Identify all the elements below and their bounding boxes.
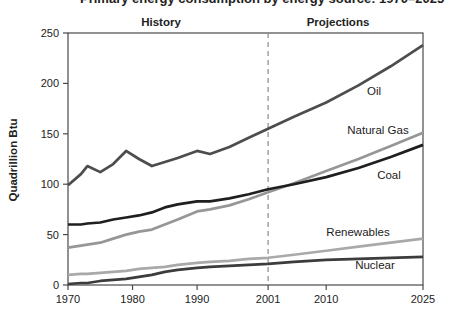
x-tick-label: 2010 — [314, 293, 338, 305]
y-tick-label: 50 — [47, 229, 59, 241]
x-tick-label: 1970 — [56, 293, 80, 305]
chart-title: Primary energy consumption by energy sou… — [80, 0, 444, 6]
series-label-nuclear: Nuclear — [355, 259, 395, 271]
series-label-oil: Oil — [367, 85, 381, 97]
series-label-renewables: Renewables — [326, 226, 390, 238]
page: { "page": { "title": "Primary energy con… — [0, 0, 451, 317]
x-tick-label: 1990 — [185, 293, 209, 305]
chart-title-clipped: Primary energy consumption by energy sou… — [0, 0, 451, 7]
series-label-natural-gas: Natural Gas — [347, 124, 409, 136]
y-tick-label: 200 — [41, 77, 59, 89]
energy-consumption-line-chart: 050100150200250197019801990200120102025O… — [0, 0, 451, 317]
x-tick-label: 1980 — [120, 293, 144, 305]
series-label-coal: Coal — [377, 169, 401, 181]
x-tick-label: 2025 — [411, 293, 435, 305]
projections-section-label: Projections — [238, 16, 438, 28]
y-tick-label: 250 — [41, 27, 59, 39]
y-tick-label: 0 — [53, 279, 59, 291]
y-axis-title: Quadrillion Btu — [7, 118, 19, 201]
y-tick-label: 100 — [41, 178, 59, 190]
history-section-label: History — [61, 16, 261, 28]
plot-frame — [68, 33, 423, 285]
y-tick-label: 150 — [41, 128, 59, 140]
x-tick-label: 2001 — [256, 293, 280, 305]
